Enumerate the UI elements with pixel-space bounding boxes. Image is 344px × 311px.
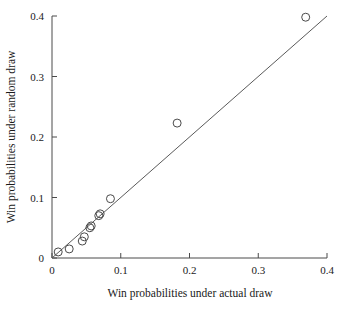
identity-reference-line — [52, 16, 327, 258]
x-axis-ticks — [52, 253, 327, 258]
x-tick-label: 0.1 — [114, 264, 128, 276]
y-tick-label: 0 — [39, 252, 45, 264]
x-tick-label: 0.3 — [251, 264, 265, 276]
y-tick-label: 0.1 — [30, 192, 44, 204]
y-axis-ticks — [52, 16, 57, 258]
scatter-plot-figure: 00.10.20.30.4 00.10.20.30.4 Win probabil… — [0, 0, 344, 311]
x-tick-label: 0 — [49, 264, 55, 276]
data-point-marker — [302, 13, 310, 21]
data-point-marker — [173, 119, 181, 127]
x-axis-title: Win probabilities under actual draw — [108, 287, 274, 300]
y-tick-label: 0.4 — [30, 10, 44, 22]
y-axis-tick-labels: 00.10.20.30.4 — [30, 10, 44, 264]
data-points-group — [54, 13, 310, 256]
reference-line-group — [52, 16, 327, 258]
y-tick-label: 0.3 — [30, 71, 44, 83]
y-axis-title: Win probabilities under random draw — [5, 50, 18, 223]
y-tick-label: 0.2 — [30, 131, 44, 143]
x-tick-label: 0.2 — [183, 264, 197, 276]
plot-canvas: 00.10.20.30.4 00.10.20.30.4 Win probabil… — [0, 0, 344, 311]
data-point-marker — [106, 195, 114, 203]
x-axis-tick-labels: 00.10.20.30.4 — [49, 264, 334, 276]
data-point-marker — [65, 245, 73, 253]
x-tick-label: 0.4 — [320, 264, 334, 276]
